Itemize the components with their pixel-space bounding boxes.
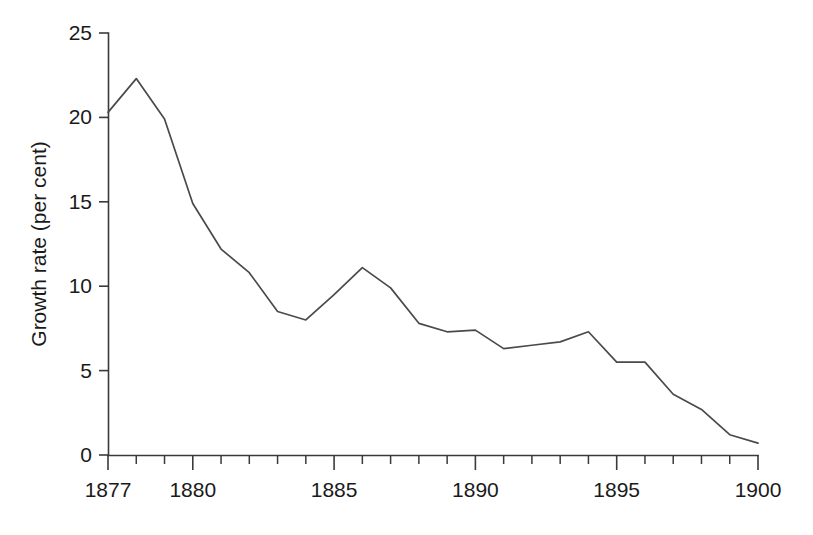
x-tick-label: 1900 (735, 478, 782, 501)
y-axis-tick-labels: 0510152025 (69, 21, 92, 466)
series-growth-rate (108, 79, 758, 444)
chart-container: 0510152025 187718801885189018951900 Grow… (0, 0, 813, 535)
x-tick-label: 1880 (169, 478, 216, 501)
x-axis-minor-ticks (136, 455, 729, 464)
y-tick-label: 20 (69, 105, 92, 128)
x-tick-label: 1885 (311, 478, 358, 501)
y-axis-ticks (99, 33, 108, 455)
x-axis-tick-labels: 187718801885189018951900 (85, 478, 782, 501)
x-tick-label: 1895 (593, 478, 640, 501)
y-tick-label: 5 (80, 359, 92, 382)
x-axis-major-ticks (108, 455, 758, 470)
y-tick-label: 0 (80, 443, 92, 466)
x-tick-label: 1890 (452, 478, 499, 501)
y-tick-label: 25 (69, 21, 92, 44)
y-tick-label: 10 (69, 274, 92, 297)
line-chart: 0510152025 187718801885189018951900 Grow… (0, 0, 813, 535)
y-tick-label: 15 (69, 190, 92, 213)
y-axis-title: Growth rate (per cent) (27, 141, 50, 346)
x-tick-label: 1877 (85, 478, 132, 501)
